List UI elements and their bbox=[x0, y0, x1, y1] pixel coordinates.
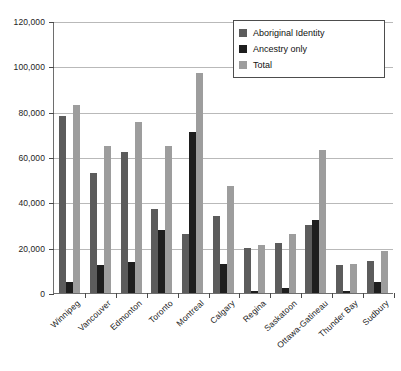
legend-swatch-icon bbox=[239, 29, 247, 37]
y-axis-tick-label: 100,000 bbox=[0, 62, 45, 72]
bar bbox=[135, 122, 142, 293]
bar bbox=[165, 146, 172, 293]
bar bbox=[244, 248, 251, 293]
x-axis-category-label: Regina bbox=[241, 298, 268, 324]
bar bbox=[196, 73, 203, 293]
bar bbox=[66, 282, 73, 293]
bar bbox=[312, 220, 319, 293]
bar bbox=[104, 146, 111, 293]
bar-group bbox=[177, 22, 208, 293]
bar bbox=[90, 173, 97, 293]
bar bbox=[374, 282, 381, 293]
y-axis-tick-label: 60,000 bbox=[0, 153, 45, 163]
bar-group bbox=[54, 22, 85, 293]
bar bbox=[121, 152, 128, 293]
chart-legend: Aboriginal Identity Ancestry only Total bbox=[233, 20, 385, 78]
legend-swatch-icon bbox=[239, 45, 247, 53]
legend-item-label: Ancestry only bbox=[253, 44, 307, 54]
bar-chart: 020,00040,00060,00080,000100,000120,000 … bbox=[0, 0, 401, 371]
x-axis-tick-mark bbox=[394, 293, 395, 298]
bar-group bbox=[85, 22, 116, 293]
legend-item-ancestry-only: Ancestry only bbox=[239, 41, 377, 57]
bar bbox=[251, 291, 258, 293]
bar bbox=[189, 132, 196, 293]
bar bbox=[367, 261, 374, 293]
legend-item-aboriginal-identity: Aboriginal Identity bbox=[239, 25, 377, 41]
bar-group bbox=[146, 22, 177, 293]
legend-swatch-icon bbox=[239, 61, 247, 69]
x-axis-category-label: Calgary bbox=[208, 298, 237, 326]
x-axis-category-label: Vancouver bbox=[76, 298, 113, 333]
bar bbox=[305, 225, 312, 293]
y-axis-tick-label: 40,000 bbox=[0, 198, 45, 208]
bar bbox=[151, 209, 158, 293]
bar bbox=[258, 245, 265, 293]
bar bbox=[213, 216, 220, 293]
bar bbox=[59, 116, 66, 293]
y-axis-tick-label: 120,000 bbox=[0, 17, 45, 27]
bar bbox=[289, 234, 296, 293]
x-axis-category-labels: WinnipegVancouverEdmontonTorontoMontreal… bbox=[53, 294, 393, 371]
y-axis-tick-label: 80,000 bbox=[0, 108, 45, 118]
bar bbox=[336, 265, 343, 293]
x-axis-category-label: Montreal bbox=[174, 298, 206, 328]
bar bbox=[220, 264, 227, 293]
legend-item-label: Total bbox=[253, 60, 272, 70]
bar bbox=[128, 262, 135, 293]
y-axis-tick-label: 20,000 bbox=[0, 244, 45, 254]
bar bbox=[158, 230, 165, 293]
bar bbox=[350, 264, 357, 293]
legend-item-total: Total bbox=[239, 57, 377, 73]
x-axis-category-label: Toronto bbox=[147, 298, 175, 325]
legend-item-label: Aboriginal Identity bbox=[253, 28, 325, 38]
bar bbox=[227, 186, 234, 293]
bar bbox=[282, 288, 289, 293]
x-axis-category-label: Edmonton bbox=[108, 298, 144, 332]
bar bbox=[319, 150, 326, 293]
x-axis-category-label: Sudbury bbox=[361, 298, 391, 327]
bar bbox=[97, 265, 104, 293]
bar bbox=[73, 105, 80, 293]
y-axis-tick-label: 0 bbox=[0, 289, 45, 299]
bar bbox=[275, 243, 282, 293]
bar bbox=[381, 251, 388, 293]
bar bbox=[182, 234, 189, 293]
bar bbox=[343, 291, 350, 293]
bar-group bbox=[116, 22, 147, 293]
